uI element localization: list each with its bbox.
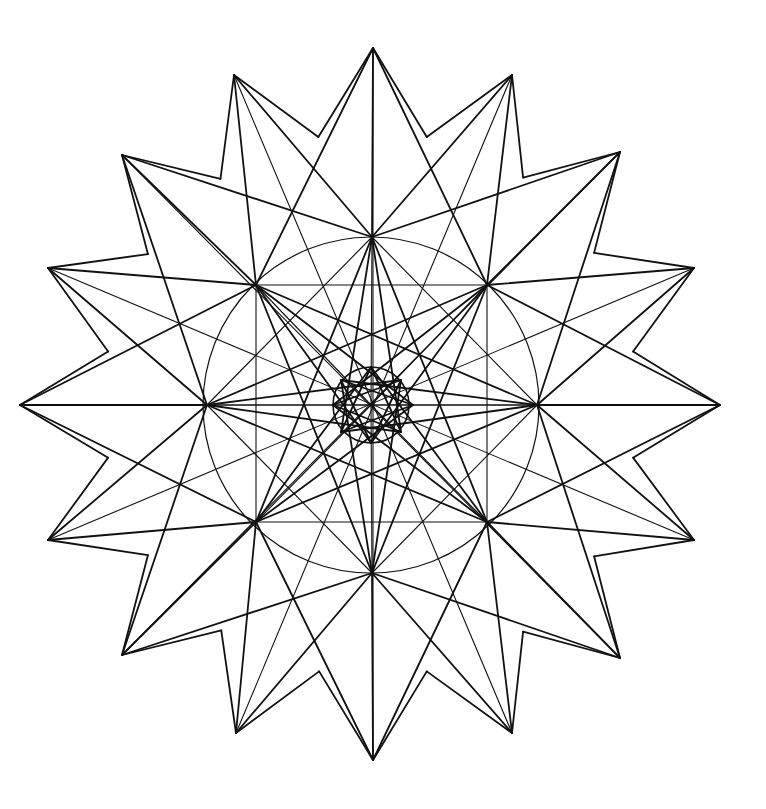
line-segment bbox=[537, 405, 620, 658]
line-segment bbox=[236, 522, 256, 733]
line-segment bbox=[537, 405, 694, 540]
line-segment bbox=[512, 632, 523, 733]
line-segment bbox=[537, 268, 694, 405]
line-segment bbox=[487, 522, 694, 540]
line-segment bbox=[371, 237, 372, 405]
line-segment bbox=[256, 48, 373, 285]
line-segment bbox=[48, 522, 256, 540]
line-segment bbox=[122, 630, 221, 655]
line-segment bbox=[633, 352, 720, 405]
line-segment bbox=[220, 75, 234, 179]
line-segment bbox=[633, 405, 720, 458]
line-segment bbox=[48, 254, 148, 268]
line-segment bbox=[221, 630, 236, 733]
line-segment bbox=[48, 540, 148, 555]
line-segment bbox=[373, 48, 427, 137]
line-segment bbox=[594, 152, 620, 253]
line-segment bbox=[371, 367, 487, 522]
line-segment bbox=[373, 671, 427, 760]
line-segment bbox=[487, 405, 720, 522]
line-segment bbox=[256, 285, 371, 405]
line-segment bbox=[373, 48, 487, 285]
line-segment bbox=[122, 155, 620, 658]
line-segment bbox=[537, 152, 620, 405]
line-segment bbox=[48, 268, 256, 285]
line-segment bbox=[487, 268, 694, 285]
line-segment bbox=[319, 671, 373, 760]
line-segment bbox=[487, 522, 512, 733]
line-segment bbox=[236, 573, 372, 733]
line-segment bbox=[20, 352, 108, 405]
line-segment bbox=[122, 405, 207, 655]
line-segment bbox=[523, 152, 620, 178]
line-segment bbox=[487, 75, 512, 285]
line-segment bbox=[371, 405, 372, 573]
line-segment bbox=[594, 556, 620, 658]
line-segment bbox=[523, 632, 620, 658]
star-mandala-figure bbox=[0, 0, 766, 809]
line-segment bbox=[20, 405, 108, 458]
line-segment bbox=[122, 155, 256, 285]
line-segment bbox=[122, 555, 148, 655]
line-segment bbox=[487, 285, 720, 405]
line-segment bbox=[594, 540, 694, 556]
line-segment bbox=[373, 522, 487, 760]
line-segment bbox=[122, 155, 148, 254]
line-segment bbox=[256, 522, 373, 760]
line-segment bbox=[512, 75, 523, 178]
line-segment bbox=[20, 285, 256, 405]
line-segment bbox=[318, 48, 373, 137]
line-segment bbox=[234, 75, 372, 237]
line-segment bbox=[372, 285, 487, 573]
line-segment bbox=[234, 75, 256, 285]
line-segment bbox=[594, 253, 694, 268]
line-segment bbox=[122, 155, 220, 179]
